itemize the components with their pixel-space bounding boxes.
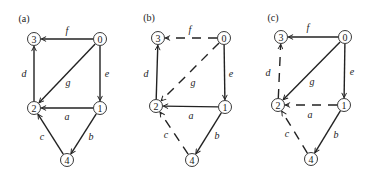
edge-e bbox=[344, 44, 345, 98]
panel-a: fegdabc01234(a) bbox=[18, 13, 109, 167]
node-2: 2 bbox=[272, 99, 285, 112]
edge-d bbox=[156, 45, 158, 99]
node-3: 3 bbox=[152, 32, 165, 45]
panel-b: fegdabc01234(b) bbox=[143, 12, 234, 167]
edge-label-b: b bbox=[215, 130, 220, 141]
node-label: 4 bbox=[190, 155, 195, 166]
graph-diagram: fegdabc01234(a)fegdabc01234(b)fegdabc012… bbox=[0, 0, 372, 179]
edge-label-g: g bbox=[191, 77, 196, 88]
edge-label-d: d bbox=[22, 68, 28, 79]
edge-label-c: c bbox=[164, 129, 169, 140]
node-label: 3 bbox=[279, 32, 284, 43]
node-4: 4 bbox=[186, 154, 199, 167]
node-0: 0 bbox=[94, 33, 107, 46]
node-label: 0 bbox=[98, 34, 103, 45]
edge-label-f: f bbox=[189, 24, 193, 35]
node-4: 4 bbox=[61, 154, 74, 167]
edge-a bbox=[163, 106, 218, 107]
node-4: 4 bbox=[305, 153, 318, 166]
node-label: 4 bbox=[309, 154, 314, 165]
edge-e bbox=[224, 45, 225, 100]
node-2: 2 bbox=[150, 100, 163, 113]
edge-label-d: d bbox=[266, 67, 272, 78]
node-1: 1 bbox=[338, 99, 351, 112]
edge-label-e: e bbox=[229, 68, 234, 79]
edge-label-f: f bbox=[66, 25, 70, 36]
panel-label: (b) bbox=[143, 12, 155, 24]
node-1: 1 bbox=[219, 101, 232, 114]
edge-d bbox=[278, 44, 280, 98]
edge-label-f: f bbox=[307, 22, 311, 33]
edge-label-e: e bbox=[350, 66, 355, 77]
node-3: 3 bbox=[275, 31, 288, 44]
node-0: 0 bbox=[339, 31, 352, 44]
edge-label-g: g bbox=[66, 77, 71, 88]
node-2: 2 bbox=[28, 102, 41, 115]
edge-g bbox=[39, 44, 95, 103]
edge-label-a: a bbox=[189, 110, 194, 121]
panel-label: (a) bbox=[18, 13, 29, 25]
node-label: 0 bbox=[343, 32, 348, 43]
edge-g bbox=[283, 42, 340, 100]
node-label: 0 bbox=[222, 33, 227, 44]
node-0: 0 bbox=[218, 32, 231, 45]
edge-label-a: a bbox=[308, 109, 313, 120]
edge-g bbox=[161, 43, 219, 101]
node-label: 2 bbox=[154, 101, 159, 112]
node-label: 1 bbox=[342, 100, 347, 111]
edge-label-e: e bbox=[105, 68, 110, 79]
node-label: 4 bbox=[65, 155, 70, 166]
node-3: 3 bbox=[28, 33, 41, 46]
edge-label-b: b bbox=[334, 129, 339, 140]
edge-label-g: g bbox=[310, 76, 315, 87]
node-label: 1 bbox=[98, 103, 103, 114]
node-1: 1 bbox=[94, 102, 107, 115]
node-label: 2 bbox=[276, 100, 281, 111]
node-label: 2 bbox=[32, 103, 37, 114]
node-label: 1 bbox=[223, 102, 228, 113]
edge-label-a: a bbox=[65, 111, 70, 122]
panel-label: (c) bbox=[267, 12, 278, 24]
node-label: 3 bbox=[32, 34, 37, 45]
panels: fegdabc01234(a)fegdabc01234(b)fegdabc012… bbox=[18, 12, 354, 167]
edge-label-d: d bbox=[144, 68, 150, 79]
node-label: 3 bbox=[156, 33, 161, 44]
edge-label-c: c bbox=[285, 128, 290, 139]
edge-label-c: c bbox=[40, 131, 45, 142]
edge-label-b: b bbox=[89, 131, 94, 142]
panel-c: fegdabc01234(c) bbox=[266, 12, 355, 166]
